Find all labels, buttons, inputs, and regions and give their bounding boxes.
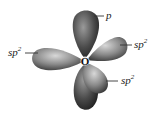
sp2-lower-right-label: sp2 xyxy=(121,73,135,86)
sp2-orbital-left-lobe xyxy=(32,48,84,70)
sp2-left-label: sp2 xyxy=(8,45,22,58)
orbital-diagram: O p sp2 sp2 sp2 xyxy=(0,0,160,119)
atom-symbol: O xyxy=(81,55,90,67)
sp2-upper-right-label: sp2 xyxy=(134,37,148,50)
p-label: p xyxy=(105,9,112,21)
